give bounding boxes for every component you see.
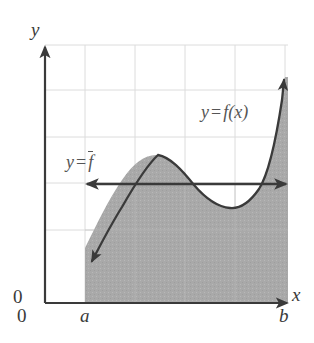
average-value-annotation: y=f xyxy=(66,152,93,171)
origin-label-x: 0 xyxy=(17,306,27,325)
curve-annotation: y=f(x) xyxy=(201,103,248,121)
x-tick-label-b: b xyxy=(279,306,289,325)
average-annotation-fbar: f xyxy=(88,151,93,171)
average-value-figure xyxy=(0,0,314,343)
x-axis-label: x xyxy=(292,285,300,304)
origin-label-y: 0 xyxy=(13,287,23,306)
curve-annotation-equals: = xyxy=(209,102,223,122)
x-tick-label-a: a xyxy=(80,306,90,325)
average-annotation-equals: = xyxy=(74,152,88,172)
average-annotation-y: y xyxy=(66,152,74,172)
y-axis-label: y xyxy=(31,20,39,39)
curve-annotation-y: y xyxy=(201,102,209,122)
curve-annotation-fx: f(x) xyxy=(223,102,248,122)
